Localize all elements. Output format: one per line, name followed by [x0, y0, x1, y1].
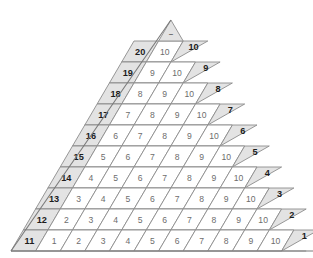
row-head-label: 11 [25, 236, 35, 246]
grid-cell-label: 5 [113, 173, 118, 183]
grid-cell-label: 7 [125, 110, 130, 120]
grid-cell-label: 9 [212, 173, 217, 183]
row-edge-label: 1 [302, 231, 307, 241]
grid-cell-label: 6 [125, 152, 130, 162]
apex-mark-label: – [169, 29, 174, 38]
grid-cell-label: 10 [221, 152, 231, 162]
grid-cell-label: 10 [209, 131, 219, 141]
apex-group: – [159, 20, 184, 41]
grid-cell-label: 7 [187, 215, 192, 225]
grid-cell-label: 6 [113, 131, 118, 141]
grid-cell-label: 9 [162, 89, 167, 99]
grid-cell-label: 2 [64, 215, 69, 225]
grid-cell-label: 4 [89, 173, 94, 183]
grid-cell-label: 7 [150, 152, 155, 162]
grid-cell-label: 10 [160, 47, 170, 57]
triangle-row: 133456789103 [36, 188, 294, 209]
grid-cell-label: 10 [258, 215, 268, 225]
grid-cell-label: 8 [138, 89, 143, 99]
triangle-row: 199109 [109, 62, 220, 83]
grid-cell-label: 8 [187, 173, 192, 183]
grid-cell-label: 9 [224, 194, 229, 204]
grid-cell-label: 2 [76, 236, 81, 246]
triangle-grid-canvas: 2010101991091889108177891071667891061556… [0, 0, 313, 258]
row-edge-label: 3 [277, 189, 282, 199]
grid-cell-label: 7 [175, 194, 180, 204]
grid-cell-label: 6 [162, 215, 167, 225]
row-edge-label: 8 [216, 84, 221, 94]
triangle-row: 1223456789102 [23, 209, 306, 230]
triangle-row: 1556789105 [60, 146, 269, 167]
grid-cell-label: 9 [248, 236, 253, 246]
grid-cell-label: 10 [197, 110, 207, 120]
grid-cell-label: 1 [52, 236, 57, 246]
grid-cell-label: 5 [125, 194, 130, 204]
grid-cell-label: 5 [150, 236, 155, 246]
grid-cell-label: 10 [271, 236, 281, 246]
row-edge-label: 10 [188, 42, 198, 52]
grid-cell-label: 9 [236, 215, 241, 225]
row-edge-label: 9 [203, 63, 208, 73]
row-edge-label: 5 [252, 147, 257, 157]
row-head-label: 14 [61, 173, 72, 183]
triangle-row: 17789107 [85, 104, 245, 125]
grid-cell-label: 8 [150, 110, 155, 120]
triangle-row: 201010 [122, 41, 208, 62]
grid-cell-label: 5 [101, 152, 106, 162]
grid-cell-label: 9 [187, 131, 192, 141]
grid-cell-label: 10 [246, 194, 256, 204]
row-edge-label: 4 [265, 168, 271, 178]
grid-cell-label: 8 [199, 194, 204, 204]
grid-cell-label: 9 [199, 152, 204, 162]
grid-cell-label: 9 [150, 68, 155, 78]
grid-cell-label: 8 [224, 236, 229, 246]
number-triangle-figure: 2010101991091889108177891071667891061556… [0, 0, 313, 258]
grid-cell-label: 10 [234, 173, 244, 183]
grid-cell-label: 8 [212, 215, 217, 225]
grid-cell-label: 3 [76, 194, 81, 204]
grid-cell-label: 4 [113, 215, 118, 225]
grid-cell-label: 8 [175, 152, 180, 162]
grid-cell-label: 4 [101, 194, 106, 204]
grid-cell-label: 9 [175, 110, 180, 120]
grid-cell-label: 6 [175, 236, 180, 246]
row-edge-label: 7 [228, 105, 233, 115]
triangle-row: 1889108 [97, 83, 232, 104]
row-head-label: 20 [135, 47, 145, 57]
grid-cell-label: 10 [172, 68, 182, 78]
triangle-row: 11123456789101 [11, 230, 313, 251]
triangle-row: 166789106 [73, 125, 258, 146]
grid-cell-label: 3 [101, 236, 106, 246]
grid-cell-label: 3 [89, 215, 94, 225]
grid-cell-label: 6 [138, 173, 143, 183]
grid-cell-label: 6 [150, 194, 155, 204]
row-edge-label: 6 [240, 126, 245, 136]
row-head-label: 12 [37, 215, 47, 225]
triangle-row: 14456789104 [48, 167, 282, 188]
grid-cell-label: 4 [125, 236, 130, 246]
grid-cell-label: 7 [162, 173, 167, 183]
grid-cell-label: 8 [162, 131, 167, 141]
row-edge-label: 2 [289, 210, 294, 220]
row-head-label: 13 [49, 194, 59, 204]
grid-cell-label: 5 [138, 215, 143, 225]
grid-cell-label: 7 [138, 131, 143, 141]
grid-cell-label: 10 [185, 89, 195, 99]
grid-cell-label: 7 [199, 236, 204, 246]
